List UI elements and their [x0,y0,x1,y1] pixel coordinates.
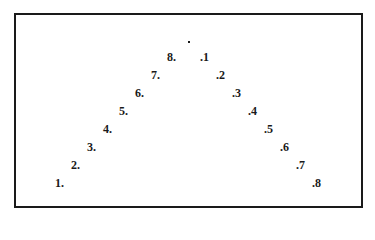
left-point-7: 7. [151,69,160,81]
left-point-2: 2. [71,159,80,171]
right-point-1: .1 [200,51,209,63]
right-point-3: .3 [232,87,241,99]
right-point-6: .6 [280,141,289,153]
right-point-2: .2 [216,69,225,81]
left-point-1: 1. [55,177,64,189]
left-point-8: 8. [167,51,176,63]
apex-point [188,41,190,43]
right-point-7: .7 [296,159,305,171]
left-point-3: 3. [87,141,96,153]
left-point-6: 6. [135,87,144,99]
left-point-4: 4. [103,123,112,135]
right-point-5: .5 [264,123,273,135]
right-point-4: .4 [248,105,257,117]
left-point-5: 5. [119,105,128,117]
right-point-8: .8 [312,177,321,189]
